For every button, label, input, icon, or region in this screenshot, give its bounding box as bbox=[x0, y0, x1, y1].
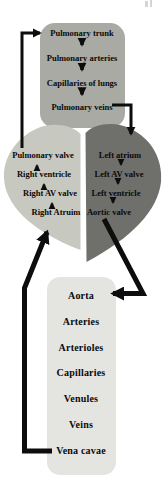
label-left-ventricle: Left ventricle bbox=[92, 189, 141, 198]
label-pulmonary-veins: Pulmonary veins bbox=[51, 103, 112, 112]
circulation-flow-diagram: Pulmonary trunk Pulmonary arteries Capil… bbox=[0, 0, 163, 494]
label-right-ventricle: Right ventricle bbox=[17, 170, 71, 179]
label-right-av-valve: Right AV valve bbox=[23, 189, 77, 198]
label-venules: Venules bbox=[64, 394, 98, 404]
label-arterioles: Arterioles bbox=[59, 343, 104, 353]
label-pulmonary-trunk: Pulmonary trunk bbox=[50, 29, 114, 38]
scan-artifact bbox=[145, 0, 152, 7]
label-left-atrium: Left atrium bbox=[99, 151, 141, 160]
label-pulmonary-arteries: Pulmonary arteries bbox=[47, 54, 118, 63]
label-capillaries-of-lungs: Capillaries of lungs bbox=[47, 79, 117, 88]
label-left-av-valve: Left AV valve bbox=[95, 170, 144, 179]
label-aortic-valve: Aortic valve bbox=[87, 208, 131, 217]
pulmonary-circuit-box bbox=[40, 23, 125, 128]
label-veins: Veins bbox=[69, 420, 93, 430]
label-pulmonary-valve: Pulmonary valve bbox=[12, 151, 74, 160]
label-capillaries: Capillaries bbox=[57, 368, 106, 378]
label-aorta: Aorta bbox=[68, 291, 94, 301]
label-right-atrium: Right Atruim bbox=[32, 208, 81, 217]
label-arteries: Arteries bbox=[63, 317, 100, 327]
label-vena-cavae: Vena cavae bbox=[56, 446, 106, 456]
